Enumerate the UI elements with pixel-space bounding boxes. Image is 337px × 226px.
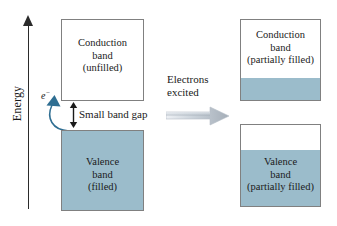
energy-axis-label: Energy	[10, 74, 25, 134]
left-valence-band-line-3: (filled)	[62, 181, 143, 194]
band-gap-label: Small band gap	[79, 108, 147, 120]
left-valence-band-line-2: band	[62, 169, 143, 182]
right-valence-band-line-2: band	[241, 169, 320, 182]
left-conduction-band-line-1: Conduction	[62, 37, 143, 50]
electron-symbol-charge: −	[45, 89, 50, 97]
right-conduction-band-box: Conduction band (partially filled)	[240, 19, 321, 101]
right-valence-band-line-3: (partially filled)	[241, 181, 320, 194]
right-conduction-band-line-2: band	[241, 42, 320, 55]
right-valence-band-line-1: Valence	[241, 156, 320, 169]
band-diagram-figure: Energy Conduction band (unfilled) Small …	[0, 0, 337, 226]
electrons-excited-line-1: Electrons	[167, 73, 229, 86]
left-valence-band-label: Valence band (filled)	[62, 156, 143, 194]
right-conduction-band-line-1: Conduction	[241, 29, 320, 42]
left-conduction-band-line-2: band	[62, 50, 143, 63]
left-valence-band-line-1: Valence	[62, 156, 143, 169]
right-valence-band-label: Valence band (partially filled)	[241, 156, 320, 194]
band-gap-double-arrow-icon	[69, 102, 78, 128]
right-conduction-band-label: Conduction band (partially filled)	[241, 29, 320, 67]
electrons-excited-block-arrow-icon	[166, 106, 230, 126]
left-conduction-band-label: Conduction band (unfilled)	[62, 37, 143, 75]
electron-symbol-label: e−	[41, 89, 50, 101]
left-valence-band-box: Valence band (filled)	[61, 130, 144, 211]
right-valence-band-box: Valence band (partially filled)	[240, 124, 321, 207]
right-conduction-band-fill	[241, 78, 320, 100]
left-conduction-band-box: Conduction band (unfilled)	[61, 19, 144, 101]
energy-axis-line	[28, 24, 29, 209]
electrons-excited-line-2: excited	[167, 86, 229, 99]
electrons-excited-label: Electrons excited	[167, 73, 229, 99]
left-conduction-band-line-3: (unfilled)	[62, 62, 143, 75]
right-conduction-band-line-3: (partially filled)	[241, 54, 320, 67]
